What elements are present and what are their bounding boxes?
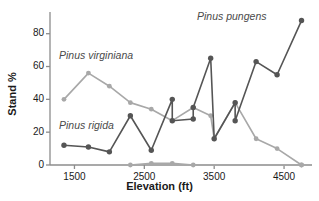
data-point: [254, 136, 259, 141]
series-label-pinus-virginiana: Pinus virginiana: [59, 49, 133, 61]
x-tick-label: 1500: [52, 171, 96, 182]
chart-figure: Pinus pungens Pinus virginiana Pinus rig…: [0, 0, 319, 201]
data-point: [191, 105, 196, 110]
data-point: [208, 56, 213, 61]
series-label-pinus-rigida: Pinus rigida: [59, 119, 114, 131]
y-tick-label: 20: [22, 126, 44, 137]
x-tick-label: 4500: [262, 171, 306, 182]
data-point: [191, 163, 196, 168]
data-point: [170, 118, 175, 123]
data-point: [62, 97, 67, 102]
series-pinus-pungens: [61, 18, 304, 155]
series-pinus-rigida: [128, 161, 304, 167]
series-label-pinus-pungens: Pinus pungens: [197, 10, 266, 22]
data-point: [128, 113, 133, 118]
data-point: [107, 149, 112, 154]
data-point: [128, 100, 133, 105]
data-point: [170, 161, 175, 166]
y-axis-title: Stand %: [6, 59, 18, 129]
x-tick-label: 2500: [122, 171, 166, 182]
data-point: [107, 84, 112, 89]
data-point: [86, 71, 91, 76]
y-tick-label: 60: [22, 60, 44, 71]
y-tick-label: 40: [22, 93, 44, 104]
data-point: [232, 100, 237, 105]
data-point: [128, 163, 133, 168]
data-point: [253, 59, 258, 64]
data-point: [191, 116, 196, 121]
x-tick-label: 3500: [192, 171, 236, 182]
data-point: [149, 107, 154, 112]
y-tick-label: 80: [22, 27, 44, 38]
data-point: [149, 161, 154, 166]
data-point: [86, 144, 91, 149]
data-point: [170, 97, 175, 102]
data-point: [275, 146, 280, 151]
data-point: [232, 118, 237, 123]
data-point: [299, 18, 304, 23]
y-tick-label: 0: [22, 159, 44, 170]
data-point: [149, 148, 154, 153]
data-point: [299, 163, 304, 168]
data-point: [211, 136, 216, 141]
series-line: [64, 21, 302, 152]
data-point: [274, 72, 279, 77]
data-point: [61, 143, 66, 148]
